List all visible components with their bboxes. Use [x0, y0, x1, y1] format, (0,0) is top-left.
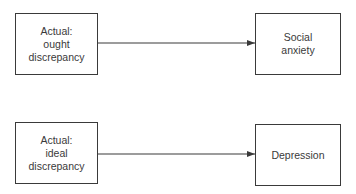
node-actual-ideal-discrepancy: Actual: ideal discrepancy: [15, 122, 98, 184]
node-label-line: discrepancy: [28, 160, 84, 173]
node-label-line: Social: [284, 31, 313, 44]
node-label-line: anxiety: [281, 44, 314, 57]
node-label-line: discrepancy: [28, 51, 84, 64]
node-depression: Depression: [255, 124, 341, 186]
node-label-line: Actual:: [40, 25, 72, 38]
node-label-line: Depression: [271, 149, 324, 162]
node-social-anxiety: Social anxiety: [255, 13, 341, 75]
node-label-line: Actual:: [40, 134, 72, 147]
node-actual-ought-discrepancy: Actual: ought discrepancy: [15, 13, 98, 75]
node-label-line: ideal: [45, 147, 67, 160]
node-label-line: ought: [43, 38, 69, 51]
